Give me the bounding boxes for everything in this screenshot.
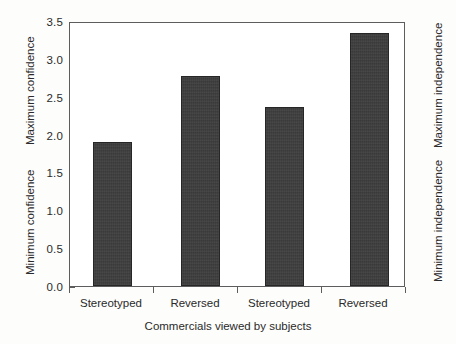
y-tick-label-7: 3.5 <box>46 16 63 28</box>
x-tick-label-3: Reversed <box>338 297 387 309</box>
x-tick-mark-2 <box>237 287 238 293</box>
bar-4 <box>350 33 389 286</box>
bar-2 <box>181 76 220 286</box>
left-axis-label-minimum-confidence: Minimum confidence <box>24 170 36 275</box>
x-tick-mark-4 <box>405 287 406 293</box>
left-axis-label-maximum-confidence: Maximum confidence <box>24 36 36 145</box>
y-tick-label-2: 1.0 <box>46 205 63 217</box>
x-tick-label-0: Stereotyped <box>80 297 142 309</box>
x-tick-mark-3 <box>321 287 322 293</box>
y-tick-label-4: 2.0 <box>46 130 63 142</box>
x-tick-mark-1 <box>153 287 154 293</box>
x-tick-label-1: Reversed <box>170 297 219 309</box>
y-tick-label-1: 0.5 <box>46 243 63 255</box>
y-tick-label-5: 2.5 <box>46 92 63 104</box>
x-axis-title: Commercials viewed by subjects <box>0 320 456 332</box>
x-tick-label-2: Stereotyped <box>248 297 310 309</box>
right-axis-label-maximum-independence: Maximum independence <box>432 23 444 148</box>
bar-chart: 0.0 0.5 1.0 1.5 2.0 2.5 3.0 3.5 Stereoty… <box>0 0 456 344</box>
y-tick-label-6: 3.0 <box>46 54 63 66</box>
bar-3 <box>265 107 304 286</box>
x-tick-mark-0 <box>69 287 70 293</box>
y-tick-label-0: 0.0 <box>46 281 63 293</box>
plot-area <box>69 22 405 287</box>
right-axis-label-minimum-independence: Minimum independence <box>432 160 444 282</box>
y-tick-label-3: 1.5 <box>46 167 63 179</box>
bar-1 <box>93 142 132 286</box>
